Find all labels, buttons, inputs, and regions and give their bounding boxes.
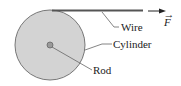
cylinder-leader-line — [85, 44, 112, 50]
rod-label: Rod — [93, 64, 112, 76]
wire-leader-line — [102, 12, 119, 27]
force-vector-mark: → — [164, 8, 175, 20]
cylinder-wire-diagram: Wire Cylinder Rod F → — [0, 0, 181, 86]
cylinder-label: Cylinder — [113, 38, 152, 50]
wire-label: Wire — [121, 21, 143, 33]
